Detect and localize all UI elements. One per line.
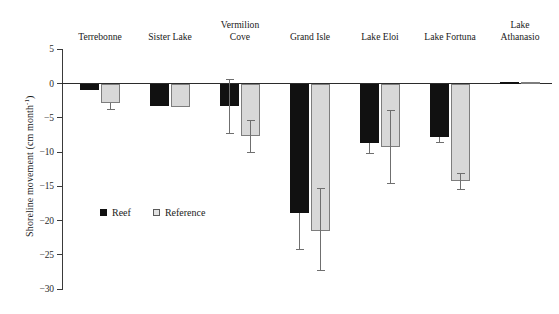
bar-reef <box>290 84 309 213</box>
error-bar-stem <box>390 110 391 183</box>
error-bar-stem <box>320 188 321 270</box>
y-tick-mark <box>57 49 62 50</box>
legend-swatch-reef-icon <box>100 209 107 216</box>
x-axis-category-label: Lake Athanasio <box>475 19 559 42</box>
legend-label-reference: Reference <box>165 207 206 218</box>
y-tick-label-wrap: 5 <box>24 44 54 54</box>
error-bar-cap-lower <box>107 109 115 110</box>
bar-reference <box>171 84 190 107</box>
bar-reference <box>101 84 120 104</box>
y-tick-label-wrap: −25 <box>24 250 54 260</box>
error-bar-cap-upper <box>387 110 395 111</box>
y-axis-line <box>62 49 63 290</box>
error-bar-stem <box>460 173 461 189</box>
error-bar-cap-lower <box>317 270 325 271</box>
legend-swatch-reference-icon <box>153 209 160 216</box>
y-tick-label-wrap: −5 <box>24 113 54 123</box>
y-tick-label: −25 <box>28 250 54 260</box>
error-bar-cap-lower <box>247 152 255 153</box>
error-bar-cap-lower <box>296 249 304 250</box>
y-tick-label: −20 <box>28 216 54 226</box>
legend-entry-reference: Reference <box>153 207 206 218</box>
error-bar-cap-upper <box>457 173 465 174</box>
legend-label-reef: Reef <box>112 207 131 218</box>
y-tick-label-wrap: −30 <box>24 284 54 294</box>
legend: Reef Reference <box>100 207 205 218</box>
y-tick-label-wrap: −15 <box>24 181 54 191</box>
bar-reef <box>500 82 519 84</box>
y-tick-mark <box>57 186 62 187</box>
y-tick-label: −5 <box>28 113 54 123</box>
y-tick-mark <box>57 117 62 118</box>
error-bar-cap-lower <box>457 189 465 190</box>
y-tick-mark <box>57 254 62 255</box>
bar-reef <box>150 84 169 107</box>
bar-reference <box>451 84 470 181</box>
error-bar-stem <box>369 143 370 153</box>
y-tick-mark <box>57 83 62 84</box>
error-bar-cap-upper <box>317 188 325 189</box>
y-tick-label-wrap: −10 <box>24 147 54 157</box>
legend-entry-reef: Reef <box>100 207 131 218</box>
y-tick-label: 0 <box>28 79 54 89</box>
y-tick-mark <box>57 220 62 221</box>
error-bar-stem <box>299 213 300 249</box>
plot-area: 50−5−10−15−20−25−30 TerrebonneSister Lak… <box>0 0 559 314</box>
y-tick-label: −30 <box>28 284 54 294</box>
error-bar-stem <box>229 79 230 133</box>
y-tick-label-wrap: −20 <box>24 216 54 226</box>
bar-reef <box>360 84 379 144</box>
y-tick-label: −15 <box>28 181 54 191</box>
y-tick-label-wrap: 0 <box>24 79 54 89</box>
error-bar-cap-lower <box>226 133 234 134</box>
error-bar-cap-lower <box>387 183 395 184</box>
bar-reef <box>430 84 449 137</box>
error-bar-stem <box>250 120 251 152</box>
y-tick-label: −10 <box>28 147 54 157</box>
figure-bar-chart: Shoreline movement (cm month-1) 50−5−10−… <box>0 0 559 314</box>
y-tick-mark <box>57 152 62 153</box>
error-bar-cap-upper <box>226 79 234 80</box>
y-tick-label: 5 <box>28 44 54 54</box>
y-tick-mark <box>57 289 62 290</box>
bar-reference <box>521 82 540 84</box>
error-bar-cap-lower <box>436 142 444 143</box>
error-bar-cap-upper <box>247 120 255 121</box>
bar-reef <box>80 84 99 91</box>
error-bar-cap-lower <box>366 153 374 154</box>
